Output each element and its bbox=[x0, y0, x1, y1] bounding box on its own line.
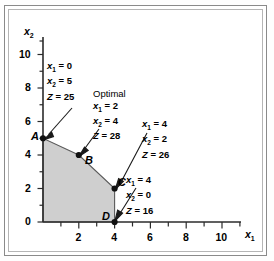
x-tick-label-2: 2 bbox=[76, 232, 82, 243]
vertex-dot-b bbox=[76, 152, 82, 158]
annotation-vertex-c: x1 = 4 x2 = 2 Z = 26 bbox=[142, 118, 169, 160]
x-tick-label-10: 10 bbox=[216, 232, 228, 243]
ann-a-z: Z bbox=[47, 91, 53, 102]
optimal-label: Optimal bbox=[93, 88, 126, 100]
figure-container: x2 x1 0 2 4 6 8 10 2 4 6 8 10 A B C D x1… bbox=[0, 0, 274, 261]
y-tick-label-2: 2 bbox=[25, 183, 31, 194]
x-tick-label-8: 8 bbox=[183, 232, 189, 243]
annotation-vertex-b: Optimal x1 = 2 x2 = 4 Z = 28 bbox=[93, 88, 126, 142]
y-tick-label-8: 8 bbox=[25, 82, 31, 93]
annotation-vertex-d: x1 = 4 x2 = 0 Z = 16 bbox=[126, 174, 153, 216]
x-axis-title: x1 bbox=[245, 229, 255, 242]
plot-svg bbox=[0, 0, 274, 261]
annotation-vertex-a: x1 = 0 x2 = 5 Z = 25 bbox=[47, 60, 74, 102]
x-tick-label-6: 6 bbox=[147, 232, 153, 243]
vertex-label-c: C bbox=[118, 177, 126, 188]
ann-d-z: Z bbox=[126, 205, 132, 216]
vertex-label-d: D bbox=[102, 211, 110, 222]
vertex-dot-a bbox=[40, 135, 46, 141]
y-axis-title: x2 bbox=[24, 26, 34, 39]
x-axis-ticks bbox=[61, 222, 240, 229]
vertex-label-b: B bbox=[85, 155, 93, 166]
y-tick-label-4: 4 bbox=[25, 149, 31, 160]
y-tick-label-10: 10 bbox=[19, 49, 31, 60]
ann-c-z: Z bbox=[142, 149, 148, 160]
leader-a bbox=[49, 108, 73, 135]
ann-b-z: Z bbox=[93, 130, 99, 141]
vertex-label-a: A bbox=[31, 131, 39, 142]
vertex-dot-d bbox=[112, 219, 118, 225]
y-tick-label-6: 6 bbox=[25, 116, 31, 127]
x-tick-label-4: 4 bbox=[111, 232, 117, 243]
vertex-dot-c bbox=[112, 185, 118, 191]
plot-area: x2 x1 0 2 4 6 8 10 2 4 6 8 10 A B C D x1… bbox=[0, 0, 274, 261]
y-tick-label-0: 0 bbox=[25, 216, 31, 227]
